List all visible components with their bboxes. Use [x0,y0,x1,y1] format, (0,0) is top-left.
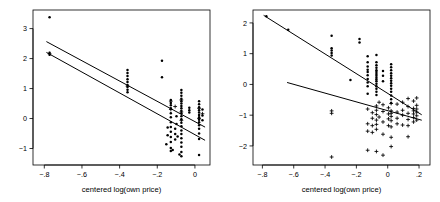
data-point-plus [406,118,410,122]
data-point-plus [375,123,379,127]
panel-right: −.8−.6−.4−.20.2−2−1012centered log(own p… [220,0,440,202]
data-point-plus [381,103,385,107]
data-point-plus [370,124,374,128]
data-point-dot [375,80,378,83]
data-point-dot [198,114,201,117]
data-point-plus [366,148,370,152]
data-point-plus [401,108,405,112]
data-point-dot [390,91,393,94]
data-point-plus [179,98,183,102]
data-point-dot [180,102,183,105]
data-point-plus [179,118,183,122]
data-point-plus [201,112,205,116]
series-group-plus [48,52,205,122]
data-point-plus [412,112,416,116]
data-point-plus [387,106,391,110]
data-point-dot [48,16,51,19]
data-point-dot [188,109,191,112]
data-point-plus [330,111,334,115]
x-tick-label: 0 [193,170,197,179]
x-tick-label: 0 [386,170,390,179]
data-point-plus [401,123,405,127]
data-point-dot [390,77,393,80]
data-point-plus [381,120,385,124]
data-point-plus [377,100,381,104]
regression-line-1 [47,42,205,127]
y-tick-label: 0 [243,80,247,89]
data-point-dot [366,61,369,64]
data-point-dot [126,75,129,78]
x-tick-label: −.4 [115,170,125,179]
data-point-dot [375,87,378,90]
data-point-dot [382,80,385,83]
data-point-dot [198,111,201,114]
data-point-dot [201,108,204,111]
data-point-dot [330,49,333,52]
x-tick-label: −.6 [289,170,299,179]
data-point-dot [165,143,168,146]
data-point-dot [366,92,369,95]
data-point-dot [166,134,169,137]
data-point-dot [375,67,378,70]
data-point-dot [390,84,393,87]
data-point-dot [390,69,393,72]
data-point-dot [126,88,129,91]
data-point-dot [170,126,173,128]
data-point-dot [170,147,173,150]
data-point-plus [375,113,379,117]
panel-left: −.8−.6−.4−.20−10123centered log(own pric… [0,0,220,202]
data-point-dot [180,91,183,94]
data-point-dot [375,54,378,57]
data-point-plus [395,102,399,106]
data-point-dot [161,76,164,79]
data-point-plus [387,117,391,121]
data-point-dot [170,130,173,133]
x-axis-title: centered log(own price) [82,185,162,194]
data-point-plus [366,107,370,111]
data-point-plus [389,102,393,106]
data-point-plus [395,116,399,120]
data-point-dot [382,70,385,73]
data-point-dot [330,47,333,50]
data-point-dot [126,91,129,94]
data-point-dot [161,59,164,62]
series-group-dot [48,16,203,158]
regression-line-1 [264,16,421,115]
data-point-dot [176,135,179,138]
data-point-dot [366,55,369,58]
data-point-dot [198,127,201,130]
panel-left-canvas: −.8−.6−.4−.20−10123centered log(own pric… [0,0,220,202]
data-point-dot [180,155,183,158]
scatter-plot-figure: −.8−.6−.4−.20−10123centered log(own pric… [0,0,440,202]
data-point-plus [389,119,393,123]
data-point-dot [178,153,181,156]
data-point-plus [406,124,410,128]
data-point-plus [375,150,379,154]
data-point-dot [174,133,177,136]
data-point-plus [377,115,381,119]
data-point-dot [349,79,352,82]
data-point-plus [387,112,391,116]
data-point-dot [170,136,173,139]
data-point-dot [126,69,129,72]
data-point-dot [170,116,173,119]
data-point-plus [375,108,379,112]
data-point-dot [330,35,333,38]
data-point-plus [366,122,370,126]
data-point-plus [395,122,399,126]
y-tick-label: 1 [23,84,27,93]
data-point-plus [406,111,410,115]
data-point-plus [415,103,419,107]
data-point-dot [198,132,201,135]
data-point-plus [406,97,410,101]
data-point-plus [412,120,416,124]
data-point-plus [370,116,374,120]
data-point-dot [188,106,191,109]
data-point-plus [197,106,201,110]
x-axis-title: centered log(own price) [302,185,382,194]
data-point-plus [412,99,416,103]
data-point-dot [366,68,369,71]
x-tick-label: .2 [416,170,422,179]
data-point-plus [389,145,393,149]
y-tick-label: 1 [243,49,247,58]
